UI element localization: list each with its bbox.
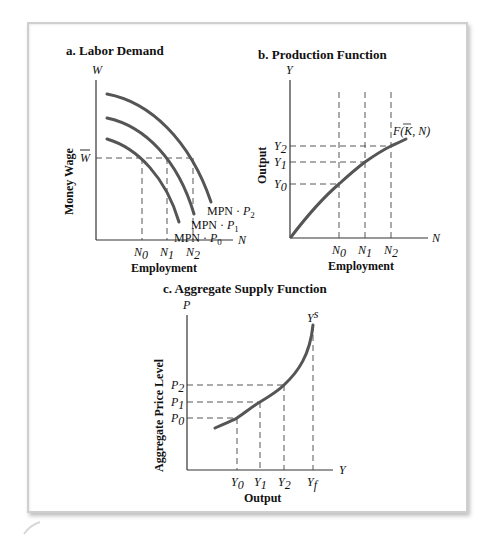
n2-label: N2 xyxy=(185,245,200,262)
output-label: Output xyxy=(255,147,269,184)
n-axis-symbol: N xyxy=(237,233,247,247)
p1-label: P1 xyxy=(170,395,184,412)
y-axis-symbol: Y xyxy=(286,63,294,77)
y2-label: Y2 xyxy=(274,139,287,156)
yf-label: Yf xyxy=(307,475,319,492)
y1-label: Y1 xyxy=(274,155,287,172)
panel-a-title: a. Labor Demand xyxy=(66,43,164,58)
panel-production-function: b. Production Function Y N Y2 Y1 Y0 N0 N… xyxy=(255,47,441,273)
aggregate-supply-curve xyxy=(215,325,313,428)
p0-label: P0 xyxy=(170,411,184,428)
y1-label: Y1 xyxy=(254,475,267,492)
y0-label: Y0 xyxy=(274,177,287,194)
output-label: Output xyxy=(244,491,281,505)
economics-figure: a. Labor Demand W N W N0 N1 N2 Employmen… xyxy=(0,0,500,540)
page-curl-mark xyxy=(24,522,40,534)
n0-label: N0 xyxy=(133,245,148,262)
production-function-label: F(K, N) xyxy=(392,124,430,138)
w-axis-symbol: W xyxy=(92,63,103,77)
n-axis-symbol: N xyxy=(431,231,441,245)
p-axis-symbol: P xyxy=(182,298,191,312)
y0-label: Y0 xyxy=(231,475,244,492)
n1-label: N1 xyxy=(357,243,372,260)
panel-aggregate-supply: c. Aggregate Supply Function P Y Ys P2 P… xyxy=(152,281,347,505)
panel-b-title: b. Production Function xyxy=(258,47,387,62)
aggregate-price-level-label: Aggregate Price Level xyxy=(152,358,166,472)
w-bar-label: W xyxy=(80,151,91,165)
mpn-p0-label: MPN · P0 xyxy=(174,231,222,247)
n1-label: N1 xyxy=(159,245,174,262)
y-axis-symbol-right: Y xyxy=(339,463,347,477)
ys-label: Ys xyxy=(307,307,319,325)
employment-label: Employment xyxy=(131,261,197,275)
y2-label: Y2 xyxy=(278,475,291,492)
n2-label: N2 xyxy=(383,243,398,260)
n0-label: N0 xyxy=(331,243,346,260)
panel-c-title: c. Aggregate Supply Function xyxy=(163,281,327,296)
panel-labor-demand: a. Labor Demand W N W N0 N1 N2 Employmen… xyxy=(62,43,255,275)
money-wage-label: Money Wage xyxy=(62,148,76,215)
mpn-p0-curve xyxy=(107,139,179,222)
production-curve xyxy=(291,139,406,237)
p2-label: P2 xyxy=(170,378,184,395)
employment-label: Employment xyxy=(328,259,394,273)
